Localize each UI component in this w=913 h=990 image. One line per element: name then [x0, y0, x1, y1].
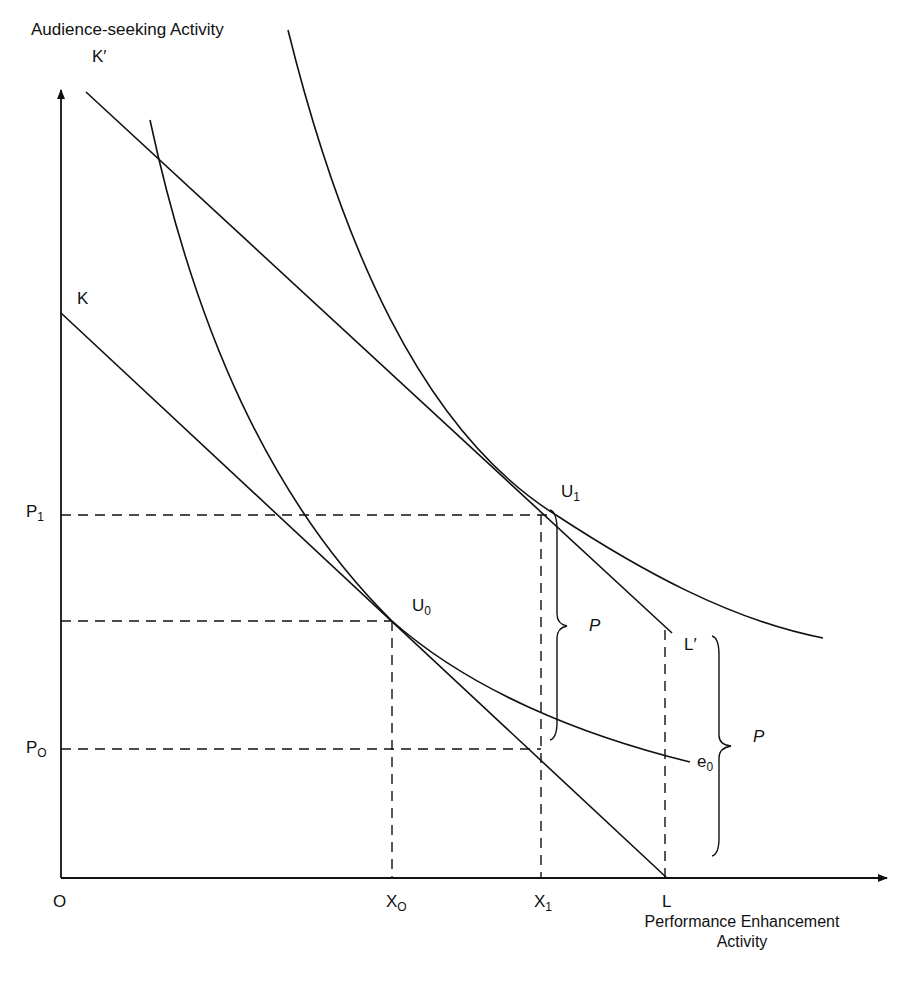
label-U1: U1	[561, 483, 580, 503]
tick-P0: PO	[26, 739, 47, 759]
brace-P-1	[550, 510, 567, 740]
indifference-curve-U1	[288, 30, 823, 638]
label-K-prime: K′	[92, 48, 107, 65]
diagram-canvas	[0, 0, 913, 990]
label-e0: e0	[697, 753, 713, 773]
tick-L: L	[662, 893, 671, 910]
y-axis-label: Audience-seeking Activity	[31, 21, 224, 38]
budget-line-KprimeLprime	[86, 92, 672, 633]
brace-label-P-2: P	[753, 728, 764, 745]
label-K: K	[77, 290, 88, 307]
label-U0: U0	[412, 597, 431, 617]
tick-X0: XO	[386, 893, 407, 913]
origin-label: O	[53, 893, 66, 910]
x-axis-label: Performance Enhancement Activity	[612, 912, 872, 952]
brace-P-2	[712, 636, 731, 856]
tick-X1: X1	[534, 893, 552, 913]
budget-line-KL	[61, 313, 667, 878]
indifference-curve-U0	[150, 120, 690, 762]
brace-label-P-1: P	[589, 617, 600, 634]
tick-P1: P1	[26, 503, 44, 523]
label-L-prime: L′	[684, 636, 697, 653]
